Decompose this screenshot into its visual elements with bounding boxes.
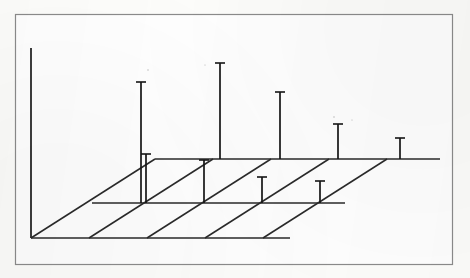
stem-plot-svg <box>0 0 470 278</box>
figure-canvas <box>0 0 470 278</box>
figure-frame <box>16 15 453 265</box>
